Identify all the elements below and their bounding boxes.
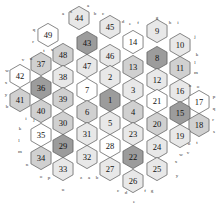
edge-identification-label: r <box>212 117 214 122</box>
edge-identification-label: b <box>94 11 97 16</box>
hex-cell[interactable] <box>100 134 120 157</box>
edge-identification-label: x <box>175 159 178 164</box>
edge-identification-label: c <box>117 188 119 193</box>
edge-identification-label: a <box>88 175 90 180</box>
hex-cell-group <box>10 6 209 192</box>
edge-identification-label: r <box>32 39 34 44</box>
edge-identification-label: o <box>197 84 200 89</box>
edge-identification-label: p <box>48 175 51 180</box>
hex-cell[interactable] <box>38 23 58 46</box>
hex-cell[interactable] <box>53 157 73 180</box>
hex-cell[interactable] <box>147 19 167 42</box>
hex-cell[interactable] <box>10 64 30 87</box>
hex-cell[interactable] <box>100 15 120 38</box>
hex-cell[interactable] <box>147 112 167 135</box>
hex-cell[interactable] <box>147 46 167 69</box>
hex-cell[interactable] <box>31 123 51 146</box>
edge-identification-label: v <box>22 57 25 62</box>
edge-identification-label: n <box>189 83 192 88</box>
hex-cell[interactable] <box>53 111 73 134</box>
hex-cell[interactable] <box>147 68 167 91</box>
edge-identification-label: s <box>51 47 53 52</box>
hex-cell[interactable] <box>53 43 73 66</box>
edge-identification-label: a <box>87 3 89 8</box>
edge-identification-label: c <box>102 11 104 16</box>
hex-cell[interactable] <box>123 55 143 78</box>
edge-identification-label: p <box>213 94 216 99</box>
hex-cell[interactable] <box>100 44 120 67</box>
hex-cell[interactable] <box>123 122 143 145</box>
edge-identification-label: y <box>176 173 179 178</box>
hex-cell[interactable] <box>77 31 97 54</box>
edge-identification-label: z <box>70 9 72 14</box>
edge-identification-label: t <box>43 48 44 53</box>
edge-identification-label: z <box>80 175 82 180</box>
hex-cell[interactable] <box>100 111 120 134</box>
hex-cell[interactable] <box>77 54 97 77</box>
edge-identification-label: k <box>196 52 199 57</box>
hex-cell[interactable] <box>170 101 190 124</box>
edge-identification-label: x <box>5 80 8 85</box>
edge-identification-label: s <box>213 129 215 134</box>
edge-identification-label: l <box>194 60 195 65</box>
edge-identification-label: e <box>129 21 131 26</box>
hex-cell[interactable] <box>31 76 51 99</box>
hex-cell[interactable] <box>189 90 209 113</box>
edge-identification-label: o <box>40 174 43 179</box>
edge-identification-label: l <box>18 138 19 143</box>
edge-identification-label: u <box>188 141 191 146</box>
edge-identification-label: k <box>19 126 22 131</box>
hex-cell[interactable] <box>100 88 120 111</box>
edge-identification-label: u <box>30 56 33 61</box>
edge-identification-label: h <box>169 20 172 25</box>
edge-identification-label: g <box>151 188 154 193</box>
hex-cell[interactable] <box>31 146 51 169</box>
hex-cell[interactable] <box>123 145 143 168</box>
hex-cell[interactable] <box>31 52 51 75</box>
edge-identification-label: d <box>125 190 128 195</box>
edge-identification-label: j <box>33 117 34 122</box>
edge-identification-label: g <box>156 15 159 20</box>
edge-identification-label: d <box>122 19 125 24</box>
hex-cell[interactable] <box>53 65 73 88</box>
hex-cell[interactable] <box>53 134 73 157</box>
edge-identification-label: n <box>26 162 29 167</box>
edge-identification-label: y <box>5 92 8 97</box>
edge-identification-label: j <box>194 34 195 39</box>
edge-identification-label: e <box>133 199 135 204</box>
hex-cell[interactable] <box>123 78 143 101</box>
edge-identification-label: m <box>18 149 22 154</box>
hex-cell[interactable] <box>100 157 120 180</box>
hex-cell[interactable] <box>100 65 120 88</box>
edge-identification-label: b <box>96 175 99 180</box>
edge-identification-label: v <box>187 150 190 155</box>
hex-cell[interactable] <box>147 157 167 180</box>
edge-identification-label: b <box>6 104 9 109</box>
edge-identification-label: a <box>62 11 64 16</box>
edge-identification-label: q <box>213 106 216 111</box>
hex-cell[interactable] <box>53 87 73 110</box>
edge-identification-label: t <box>196 140 197 145</box>
edge-identification-label: m <box>194 70 198 75</box>
edge-identification-label: u <box>62 187 65 192</box>
hex-cell[interactable] <box>77 78 97 101</box>
hex-cell[interactable] <box>77 122 97 145</box>
hex-cell[interactable] <box>147 89 167 112</box>
edge-identification-label: w <box>5 68 9 73</box>
hex-cell[interactable] <box>170 79 190 102</box>
hex-cell[interactable] <box>77 100 97 123</box>
hex-cell[interactable] <box>123 30 143 53</box>
hex-cell[interactable] <box>170 33 190 56</box>
hex-cell[interactable] <box>10 88 30 111</box>
edge-identification-label: q <box>33 27 36 32</box>
hex-cell[interactable] <box>189 113 209 136</box>
hex-cell[interactable] <box>147 135 167 158</box>
edge-identification-label: w <box>179 152 183 157</box>
hex-cell[interactable] <box>170 56 190 79</box>
hex-cell[interactable] <box>123 100 143 123</box>
hex-cell[interactable] <box>77 145 97 168</box>
edge-identification-label: f <box>137 20 139 25</box>
hex-tiling-diagram: 4445949431410484683747131142382123673164… <box>0 0 220 209</box>
edge-identification-label: i <box>25 116 26 121</box>
edge-identification-label: f <box>144 188 146 193</box>
